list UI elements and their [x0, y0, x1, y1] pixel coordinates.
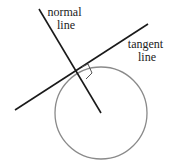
normal-line-label: normal line: [48, 5, 85, 32]
tangent-normal-diagram: normal line tangent line: [0, 0, 172, 168]
right-angle-marker: [82, 64, 92, 79]
tangent-line-label: tangent line: [128, 37, 166, 64]
